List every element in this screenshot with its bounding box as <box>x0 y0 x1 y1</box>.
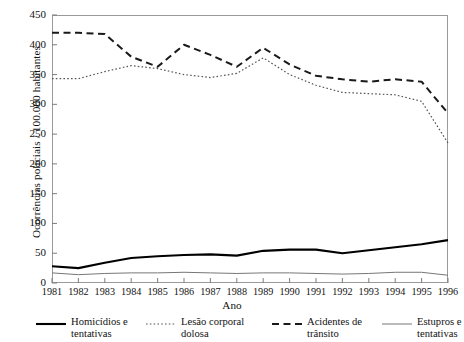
y-tick-label: 100 <box>12 217 46 228</box>
y-tick-label: 250 <box>12 128 46 139</box>
y-tick-label: 50 <box>12 247 46 258</box>
y-tick-label: 150 <box>12 188 46 199</box>
plot-series-layer <box>52 15 448 283</box>
line-chart: Ocorrências policiais / 100.000 habitant… <box>0 0 464 342</box>
x-axis-ticks <box>52 278 448 283</box>
legend-swatch-icon <box>146 317 176 331</box>
legend-swatch-icon <box>272 317 302 331</box>
legend-item[interactable]: Acidentes de trânsito <box>272 316 362 341</box>
x-axis-title: Ano <box>0 299 464 311</box>
series-line-1 <box>52 58 448 143</box>
y-axis-ticks <box>52 15 57 283</box>
legend-label: Lesão corporal dolosa <box>181 316 244 341</box>
y-tick-label: 300 <box>12 98 46 109</box>
y-tick-label: 350 <box>12 69 46 80</box>
x-tick-label: 1996 <box>431 286 464 298</box>
series-line-0 <box>52 240 448 268</box>
y-tick-label: 400 <box>12 39 46 50</box>
series-lines <box>52 33 448 275</box>
legend-item[interactable]: Lesão corporal dolosa <box>146 316 244 341</box>
legend-label: Homicídios e tentativas <box>71 316 128 341</box>
legend-label: Acidentes de trânsito <box>307 316 362 341</box>
chart-legend: Homicídios e tentativasLesão corporal do… <box>0 316 464 342</box>
legend-label: Estupros e tentativas <box>417 316 461 341</box>
y-tick-label: 450 <box>12 9 46 20</box>
series-line-3 <box>52 272 448 275</box>
legend-item[interactable]: Estupros e tentativas <box>382 316 461 341</box>
legend-item[interactable]: Homicídios e tentativas <box>36 316 128 341</box>
legend-swatch-icon <box>36 317 66 331</box>
legend-swatch-icon <box>382 317 412 331</box>
series-line-2 <box>52 33 448 113</box>
y-tick-label: 200 <box>12 158 46 169</box>
